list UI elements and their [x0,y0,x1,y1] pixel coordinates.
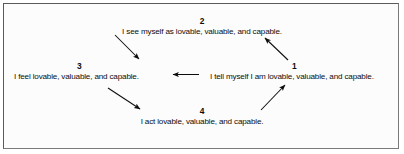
node-1-text: I tell myself I am lovable, valuable, an… [210,72,374,82]
node-2-text: I see myself as lovable, valuable, and c… [0,27,404,37]
node-4: 4 I act lovable, valuable, and capable. [0,106,404,127]
node-2-label: 2 [0,16,404,26]
node-4-text: I act lovable, valuable, and capable. [0,117,404,127]
node-3-text: I feel lovable, valuable, and capable. [14,72,139,82]
node-3-label: 3 [14,61,139,71]
node-2: 2 I see myself as lovable, valuable, and… [0,16,404,37]
node-1: 1 I tell myself I am lovable, valuable, … [210,61,374,82]
node-3: 3 I feel lovable, valuable, and capable. [14,61,139,82]
node-1-label: 1 [210,61,374,71]
node-4-label: 4 [0,106,404,116]
